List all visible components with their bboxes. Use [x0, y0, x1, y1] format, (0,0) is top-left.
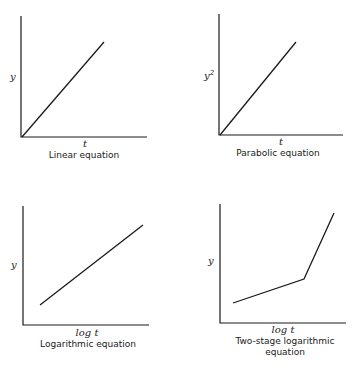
axes — [23, 206, 149, 325]
axes — [219, 14, 343, 135]
data-line — [40, 225, 143, 305]
y-axis-label: y2 — [203, 69, 215, 81]
panel-parabolic: y2 t Parabolic equation — [203, 14, 343, 158]
data-line — [233, 213, 334, 303]
caption: Parabolic equation — [236, 148, 320, 158]
x-axis-label: log t — [272, 324, 296, 335]
panel-linear: y t Linear equation — [9, 16, 147, 160]
x-axis-label: log t — [76, 327, 100, 338]
axes — [220, 204, 346, 323]
caption: Logarithmic equation — [40, 339, 136, 349]
x-axis-label: t — [83, 138, 88, 149]
caption-line-2: equation — [265, 347, 305, 357]
figure: y t Linear equation y2 t Parabolic equat… — [0, 0, 355, 367]
y-axis-label: y — [10, 259, 17, 270]
x-axis-label: t — [279, 136, 284, 147]
caption: Linear equation — [49, 150, 120, 160]
data-line — [22, 42, 104, 137]
caption-line-1: Two-stage logarithmic — [234, 336, 334, 346]
y-axis-label: y — [9, 71, 16, 82]
axes — [21, 16, 147, 137]
y-axis-label: y — [207, 255, 214, 266]
panel-logarithmic: y log t Logarithmic equation — [10, 206, 149, 349]
panel-two-stage-logarithmic: y log t Two-stage logarithmic equation — [207, 204, 346, 357]
data-line — [220, 42, 296, 135]
